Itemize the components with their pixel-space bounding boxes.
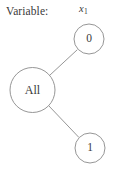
variable-caption: Variable: [6,6,48,18]
node-all-label: All [25,84,40,96]
variable-name-label: x1 [79,4,87,15]
variable-split-diagram: Variable: x1 0 All 1 [0,0,117,170]
variable-name-subscript: 1 [84,7,88,16]
node-zero-label: 0 [86,33,92,45]
variable-name-base: x [79,3,84,14]
edge-all-to-zero [50,50,78,76]
edge-all-to-one [49,106,79,138]
node-one-label: 1 [87,142,93,154]
diagram-canvas [0,0,117,170]
